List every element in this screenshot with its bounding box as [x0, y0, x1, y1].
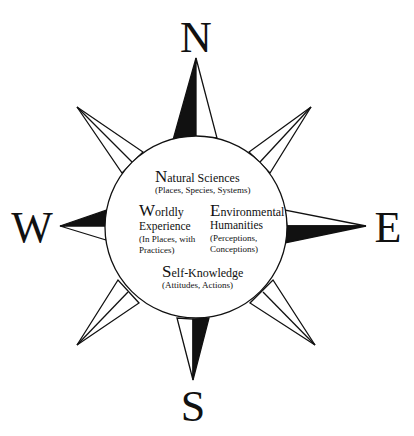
south-label: S [181, 382, 205, 431]
south-spike [177, 318, 209, 380]
east-spike [285, 210, 366, 243]
east-label: E [375, 203, 402, 252]
self-knowledge-initial: S [162, 262, 171, 281]
worldly-initial: W [139, 201, 156, 220]
environmental-line4: Conceptions) [210, 244, 258, 254]
self-knowledge-title: elf-Knowledge [171, 266, 243, 280]
natural-sciences-title: atural Sciences [167, 171, 240, 185]
environmental-line2: Humanities [210, 219, 264, 231]
north-label: N [180, 13, 212, 62]
compass-diagram: N S W E Natural Sciences (Places, Specie… [0, 0, 414, 436]
worldly-line2: Experience [139, 220, 191, 233]
worldly-line4: Practices) [139, 245, 174, 255]
west-spike [60, 210, 107, 240]
self-knowledge-subtitle: (Attitudes, Actions) [162, 280, 233, 290]
self-knowledge-section: Self-Knowledge (Attitudes, Actions) [162, 262, 243, 290]
north-spike [173, 58, 217, 140]
natural-sciences-subtitle: (Places, Species, Systems) [155, 185, 250, 195]
worldly-line3: (In Places, with [139, 234, 196, 244]
worldly-title: orldly [155, 205, 184, 219]
environmental-line3: (Perceptions, [210, 233, 257, 243]
west-label: W [11, 203, 53, 252]
environmental-initial: E [210, 201, 220, 220]
environmental-title: nvironmental [220, 205, 285, 219]
natural-sciences-section: Natural Sciences (Places, Species, Syste… [155, 167, 250, 195]
natural-sciences-initial: N [155, 167, 167, 186]
